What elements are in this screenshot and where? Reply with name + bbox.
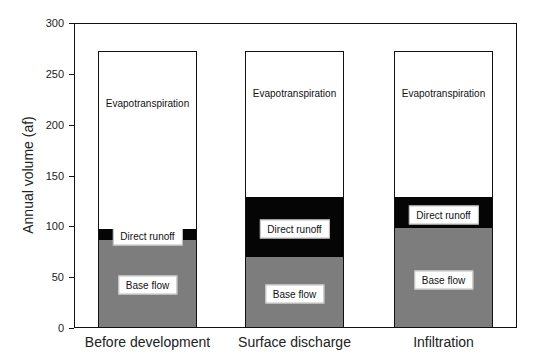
y-tick-label: 0 — [58, 322, 64, 334]
y-tick-label: 100 — [46, 220, 64, 232]
y-tick-label: 200 — [46, 119, 64, 131]
segment-evapotranspiration — [99, 51, 196, 229]
x-tick-label: Surface discharge — [238, 334, 351, 350]
bar-before-development: Base flowDirect runoffEvapotranspiration — [98, 51, 197, 328]
stacked-bar-chart: Annual volume (af) 050100150200250300Bas… — [0, 0, 536, 363]
segment-label: Evapotranspiration — [402, 88, 485, 99]
y-tick-label: 150 — [46, 170, 64, 182]
segment-evapotranspiration — [395, 51, 492, 196]
segment-label: Direct runoff — [408, 205, 478, 224]
segment-label: Base flow — [265, 284, 324, 303]
y-tick-label: 300 — [46, 17, 64, 29]
y-tick-label: 250 — [46, 68, 64, 80]
segment-label: Base flow — [414, 270, 473, 289]
x-tick-label: Before development — [85, 334, 210, 350]
y-axis-title: Annual volume (af) — [20, 116, 36, 234]
segment-label: Evapotranspiration — [106, 97, 189, 108]
y-tick — [69, 176, 74, 177]
bar-infiltration: Base flowDirect runoffEvapotranspiration — [394, 51, 493, 328]
segment-label: Evapotranspiration — [253, 88, 336, 99]
y-tick — [69, 277, 74, 278]
y-tick — [69, 328, 74, 329]
bar-surface-discharge: Base flowDirect runoffEvapotranspiration — [245, 51, 344, 328]
y-tick-label: 50 — [52, 271, 64, 283]
y-tick — [69, 226, 74, 227]
y-tick — [69, 125, 74, 126]
y-tick — [69, 23, 74, 24]
segment-label: Direct runoff — [112, 227, 182, 246]
x-tick-label: Infiltration — [413, 334, 474, 350]
segment-label: Direct runoff — [259, 219, 329, 238]
y-tick — [69, 74, 74, 75]
segment-label: Base flow — [118, 276, 177, 295]
segment-evapotranspiration — [246, 51, 343, 196]
